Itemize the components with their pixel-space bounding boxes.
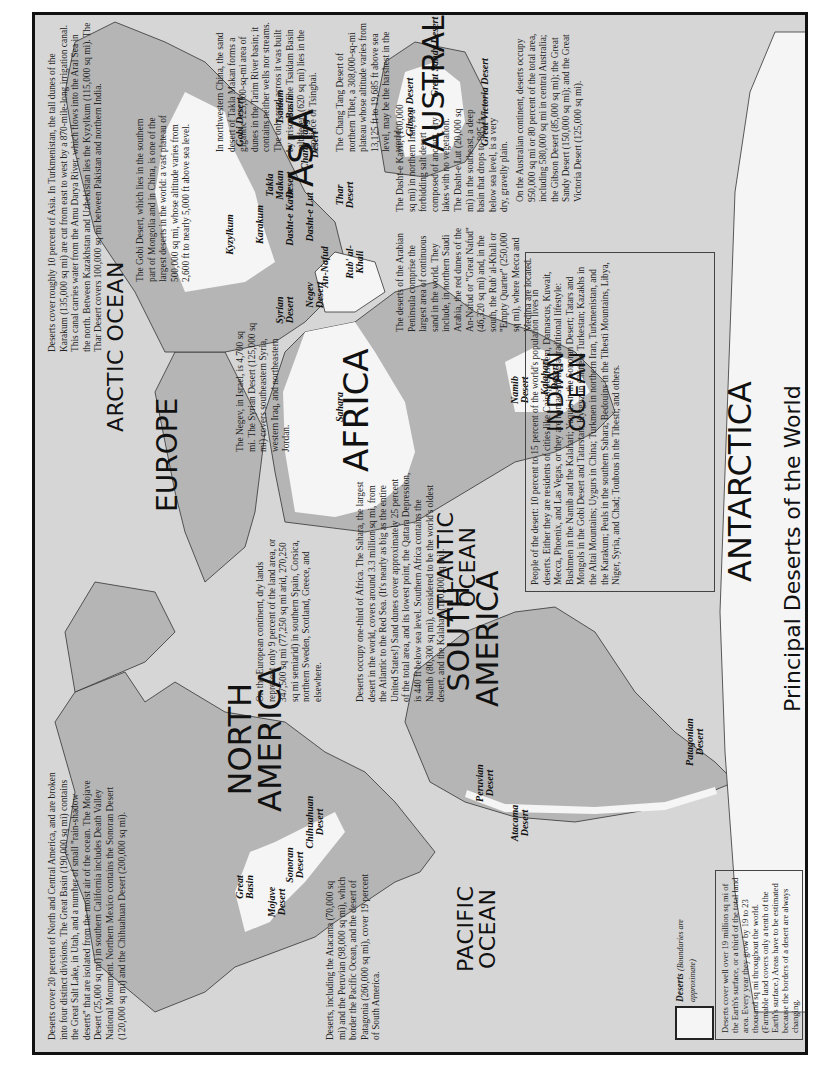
world-deserts-map: Principal Deserts of the World ARCTIC OC… [32, 12, 808, 1055]
note-central-asia: Deserts cover roughly 10 percent of Asia… [47, 22, 105, 352]
note-iran: The Dasht-e Kavir, (100,000 sq mi) in no… [395, 102, 511, 212]
note-takla-makan: In northwestern China, the sand desert o… [215, 22, 319, 152]
label-an-nafud: An-Nafud [320, 242, 330, 292]
map-title: Principal Deserts of the World [780, 385, 805, 712]
label-atacama: Atacama Desert [510, 799, 530, 847]
label-sahara: Sahara [335, 382, 345, 432]
note-arabia: The deserts of the Arabian Peninsula com… [395, 222, 534, 332]
note-australia: On the Australian continent, deserts occ… [515, 22, 585, 202]
label-great-basin: Great Basin [235, 867, 255, 907]
note-south-america: Deserts, including the Atacama (70,000 s… [325, 870, 383, 1040]
note-chang-tang: The Chang Tang Desert of northern Tibet,… [335, 22, 405, 152]
note-gobi: The Gobi Desert, which lies in the south… [135, 112, 193, 282]
label-rub-al-khali: Rub' al-Khali [345, 237, 365, 287]
label-peruvian: Peruvian Desert [475, 759, 495, 807]
label-sonoran: Sonoran Desert [285, 843, 305, 887]
legend-description: Deserts cover well over 19 million sq mi… [715, 870, 803, 1040]
label-europe: EUROPE [155, 398, 182, 512]
label-south-america: SOUTHAMERICA [445, 570, 502, 707]
label-karakum: Karakum [255, 197, 265, 252]
label-antarctica: ANTARCTICA [725, 381, 755, 582]
note-negev-syria: The Negev, in Israel, is 4,700 sq mi. Th… [235, 322, 293, 452]
label-mojave: Mojave Desert [267, 882, 287, 922]
label-patagonian: Patagonian Desert [685, 712, 705, 772]
label-chihuahuan: Chihuahuan Desert [305, 792, 325, 852]
note-north-america: Deserts cover 20 percent of North and Ce… [47, 770, 128, 1040]
label-pacific-ocean: PACIFICOCEAN [455, 886, 499, 972]
note-europe: On the European continent, dry lands rep… [255, 532, 325, 702]
label-kyzylkum: Kyzylkum [225, 207, 235, 262]
legend-label: Deserts (Boundaries are approximate) [675, 882, 698, 1002]
note-people-box: People of the desert: 10 percent to 15 p… [525, 252, 715, 592]
label-takla-makan: Takla Makan Desert [265, 163, 295, 207]
legend-desert-swatch [675, 1006, 714, 1040]
label-arctic-ocean: ARCTIC OCEAN [105, 261, 127, 432]
label-dasht-e-lut: Dasht-e Lut [305, 187, 315, 247]
label-great-sandy: Great Sandy Desert [430, 12, 440, 112]
note-africa: Deserts occupy one-third of Africa. The … [355, 472, 448, 702]
label-thar: Thar Desert [335, 173, 355, 217]
map-frame: Principal Deserts of the World ARCTIC OC… [32, 12, 808, 1055]
